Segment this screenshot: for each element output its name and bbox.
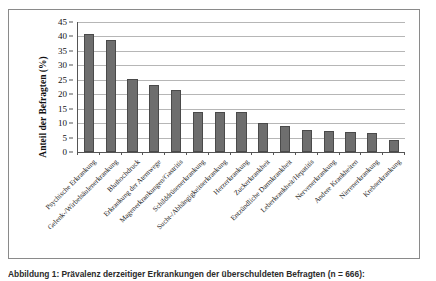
x-axis-tick-mark: [230, 152, 231, 155]
x-axis-category-label-text: Bluthochdruck: [105, 158, 141, 194]
y-axis-tick-label: 0: [63, 147, 68, 157]
x-axis-category-label-text: Schilddrüsenerkrankung: [151, 158, 206, 213]
x-axis-tick-mark: [142, 152, 143, 155]
x-axis-tick-mark: [339, 152, 340, 155]
y-axis-tick-label: 15: [58, 104, 67, 114]
y-axis-tick-label: 45: [58, 17, 67, 27]
x-axis-tick-mark: [77, 152, 78, 155]
bar: [215, 112, 225, 152]
x-axis-tick-mark: [404, 152, 405, 155]
x-axis-category-label-text: Gelenk-/Wirbelsäulenerkrankung: [46, 158, 119, 231]
plot-area: [77, 22, 405, 153]
x-axis-category-label-text: Sucht-/Abhängigkeitserkrankung: [155, 158, 228, 231]
x-axis-category-label-text: Psychische Erkrankung: [44, 158, 98, 212]
y-axis-tick-label: 5: [63, 133, 68, 143]
bar: [193, 112, 203, 152]
bar: [84, 34, 94, 152]
bar: [106, 40, 116, 152]
bar: [345, 132, 355, 153]
y-axis-tick-mark: [69, 152, 73, 153]
y-axis-tick-mark: [69, 36, 73, 37]
x-axis-tick-mark: [382, 152, 383, 155]
bar: [280, 126, 290, 152]
y-axis-tick-label: 35: [58, 46, 67, 56]
x-axis-category-label-text: Entzündliche Darmkrankheit: [229, 158, 294, 223]
x-axis-tick-mark: [360, 152, 361, 155]
y-axis-tick-mark: [69, 137, 73, 138]
x-axis-tick-mark: [273, 152, 274, 155]
bar: [149, 85, 159, 152]
y-axis-tick-labels: 051015202530354045: [9, 22, 73, 152]
y-axis-tick-label: 10: [58, 118, 67, 128]
y-axis-tick-label: 20: [58, 89, 67, 99]
x-axis-category-label-text: Magenerkrankungen/Gastritis: [118, 158, 184, 224]
y-axis-tick-mark: [69, 50, 73, 51]
x-axis-tick-mark: [186, 152, 187, 155]
y-axis-tick-label: 25: [58, 75, 67, 85]
x-axis-category-label-text: Leberkrankheit/Hepatitis: [259, 158, 315, 214]
x-axis-tick-mark: [317, 152, 318, 155]
x-axis-tick-mark: [251, 152, 252, 155]
x-axis-tick-mark: [295, 152, 296, 155]
figure-container: Anteil der Befragten (%) 051015202530354…: [0, 0, 436, 281]
bar: [324, 131, 334, 152]
bar: [258, 123, 268, 152]
x-axis-tick-mark: [121, 152, 122, 155]
bar-series: [78, 22, 405, 152]
figure-caption: Abbildung 1: Prävalenz derzeitiger Erkra…: [8, 269, 432, 279]
y-axis-tick-mark: [69, 65, 73, 66]
y-axis-tick-mark: [69, 79, 73, 80]
x-axis-category-label-text: Krebserkrankung: [362, 158, 403, 199]
x-axis-tick-mark: [208, 152, 209, 155]
bar: [236, 112, 246, 152]
y-axis-tick-label: 40: [58, 31, 67, 41]
x-axis-tick-marks: [77, 152, 404, 156]
x-axis-tick-mark: [99, 152, 100, 155]
x-axis-category-label-text: Nervenerkrankung: [294, 158, 338, 202]
bar: [389, 140, 399, 152]
x-axis-category-label-text: Herzerkrankung: [211, 158, 250, 197]
bar: [367, 133, 377, 152]
x-axis-category-label-text: Zuckerkrankheit: [233, 158, 272, 197]
y-axis-tick-mark: [69, 123, 73, 124]
bar: [127, 79, 137, 152]
y-axis-tick-mark: [69, 22, 73, 23]
x-axis-category-label-text: Nierenerkrankung: [338, 158, 381, 201]
bar: [302, 130, 312, 152]
bar: [171, 90, 181, 152]
y-axis-tick-mark: [69, 108, 73, 109]
y-axis-tick-label: 30: [58, 60, 67, 70]
x-axis-tick-mark: [164, 152, 165, 155]
x-axis-category-label-text: Erkrankung der Atemwege: [103, 158, 163, 218]
y-axis-tick-mark: [69, 94, 73, 95]
chart-frame: Anteil der Befragten (%) 051015202530354…: [8, 9, 420, 259]
x-axis-category-label-text: Andere Krankheiten: [312, 158, 359, 205]
